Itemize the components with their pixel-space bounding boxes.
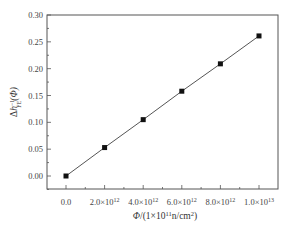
x-axis-label: Φ/(1×1011n/cm2)	[133, 210, 197, 223]
y-tick-label: 0.10	[28, 117, 43, 127]
x-tick-label: 0.0	[61, 197, 72, 207]
y-tick-label: 0.20	[28, 64, 43, 74]
y-tick-label: 0.15	[28, 91, 43, 101]
x-tick-label: 2.0×1012	[90, 197, 120, 208]
data-point-square-marker	[141, 117, 146, 122]
x-tick-label: 1.0×1013	[244, 197, 274, 208]
x-axis: 0.02.0×10124.0×10126.0×10128.0×10121.0×1…	[61, 185, 274, 207]
data-point-square-marker	[179, 89, 184, 94]
data-point-square-marker	[257, 33, 262, 38]
x-tick-label: 4.0×1012	[128, 197, 158, 208]
x-tick-label: 6.0×1012	[167, 197, 197, 208]
series-layer	[64, 33, 262, 178]
x-tick-label: 8.0×1012	[205, 197, 235, 208]
y-tick-label: 0.00	[28, 171, 43, 181]
data-point-square-marker	[64, 174, 69, 179]
data-point-square-marker	[102, 145, 107, 150]
y-tick-label: 0.25	[28, 37, 43, 47]
y-tick-label: 0.30	[28, 10, 43, 20]
series-line	[66, 36, 259, 176]
chart: 0.02.0×10124.0×10126.0×10128.0×10121.0×1…	[0, 0, 288, 231]
y-tick-label: 0.05	[28, 144, 43, 154]
plot-frame	[47, 15, 278, 189]
plot-area	[47, 15, 278, 189]
y-axis-label: Δh−1FE(Φ)	[9, 87, 22, 117]
y-axis: 0.000.050.100.150.200.250.30	[28, 10, 51, 189]
data-point-square-marker	[218, 61, 223, 66]
